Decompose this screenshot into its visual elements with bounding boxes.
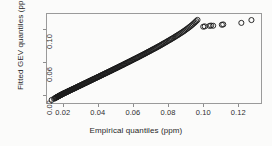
y-tick-mark: [43, 62, 46, 63]
y-tick-label: 0.06: [45, 67, 54, 82]
qq-plot-figure: 0.020.040.060.080.100.12 0.020.060.10 Em…: [0, 0, 272, 146]
y-axis-title: Fitted GEV quantiles (ppm): [16, 0, 25, 111]
x-tick-mark: [133, 104, 134, 107]
x-axis-title: Empirical quantiles (ppm): [0, 126, 272, 135]
y-tick-label: 0.02: [45, 100, 54, 115]
x-tick-label: 0.02: [55, 108, 70, 117]
x-tick-label: 0.04: [90, 108, 105, 117]
x-tick-mark: [238, 104, 239, 107]
y-tick-mark: [43, 95, 46, 96]
x-tick-mark: [203, 104, 204, 107]
x-tick-label: 0.12: [231, 108, 246, 117]
data-point: [249, 18, 254, 23]
x-tick-mark: [168, 104, 169, 107]
plot-frame: [46, 13, 262, 104]
x-tick-mark: [63, 104, 64, 107]
x-tick-label: 0.10: [196, 108, 211, 117]
y-tick-mark: [43, 29, 46, 30]
x-tick-label: 0.08: [161, 108, 176, 117]
scatter-data-layer: [47, 14, 261, 103]
y-tick-label: 0.10: [45, 34, 54, 49]
data-point: [239, 20, 244, 25]
x-tick-mark: [98, 104, 99, 107]
x-tick-label: 0.06: [125, 108, 140, 117]
